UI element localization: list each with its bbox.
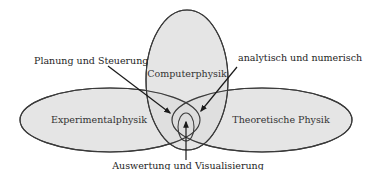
- label-computerphysik: Computerphysik: [147, 68, 227, 79]
- venn-diagram: Computerphysik Experimentalphysik Theore…: [0, 0, 369, 170]
- annotation-evaluation: Auswertung und Visualisierung: [111, 160, 264, 170]
- label-experimentalphysik: Experimentalphysik: [51, 114, 147, 125]
- label-theoretische-physik: Theoretische Physik: [232, 114, 330, 125]
- annotation-planning: Planung und Steuerung: [34, 55, 148, 66]
- annotation-analytical: analytisch und numerisch: [238, 52, 362, 63]
